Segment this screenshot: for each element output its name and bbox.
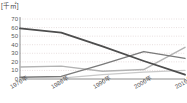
series-line — [20, 47, 185, 71]
y-axis-tick-label: 70 — [4, 16, 18, 22]
y-axis-tick-label: 10 — [4, 67, 18, 73]
y-axis-tick-label: 40 — [4, 42, 18, 48]
plot-svg — [20, 19, 185, 79]
y-axis-tick-label: 30 — [4, 50, 18, 56]
plot-area — [20, 19, 185, 79]
series-line — [20, 52, 185, 78]
y-axis-tick-label: 50 — [4, 33, 18, 39]
y-axis-tick-label: 60 — [4, 25, 18, 31]
series-line — [20, 28, 185, 74]
x-axis-tick-labels: 1970年1980年1990年2000年2010年 — [0, 78, 187, 103]
line-chart: [千㎡] 706050403020100 1970年1980年1990年2000… — [0, 0, 187, 103]
y-axis-tick-label: 20 — [4, 59, 18, 65]
